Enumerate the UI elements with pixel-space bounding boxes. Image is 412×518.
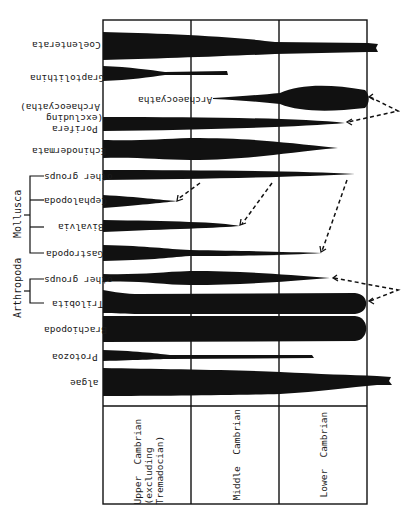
arrow-mollusca-other-gastropoda xyxy=(322,180,347,251)
label-porifera-line1: Porifera xyxy=(52,124,98,134)
spindle-porifera xyxy=(103,117,345,131)
label-graptolithina: Graptolithina xyxy=(30,73,104,83)
label-gastropoda: Gastropoda xyxy=(46,249,103,259)
spindle-echinodermata xyxy=(103,138,338,160)
label-mollusca-other-groups: other groups xyxy=(44,172,113,182)
spindle-arthropoda-other xyxy=(103,271,330,285)
group-label-mollusca: Mollusca xyxy=(12,190,23,238)
label-arthropoda-other-groups: other groups xyxy=(44,275,113,285)
label-coelenterata: Coelenterata xyxy=(32,40,101,50)
spindle-trilobita xyxy=(103,290,366,314)
label-trilobita: Trilobita xyxy=(52,299,103,309)
period-lower-cambrian: Lower Cambrian xyxy=(318,414,329,498)
spindle-graptolithina xyxy=(103,66,228,81)
spindle-gastropoda xyxy=(103,245,322,261)
label-porifera-line3: Archaeocyatha) xyxy=(20,102,100,112)
label-brachiopoda: Brachiopoda xyxy=(44,325,107,335)
arthropoda-bracket xyxy=(30,279,44,303)
arrow-mollusca-other-cephalopoda xyxy=(178,183,200,199)
label-porifera-line2: (excluding xyxy=(46,113,103,123)
arrow-mollusca-other-bivalvia xyxy=(242,183,272,224)
group-brackets xyxy=(24,176,44,303)
period-middle-cambrian: Middle Cambrian xyxy=(231,411,242,501)
spindle-coelenterata xyxy=(103,32,378,60)
label-archaeocyatha-inline: Archaeocyatha xyxy=(138,95,212,105)
group-label-arthropoda: Arthropoda xyxy=(12,258,23,318)
label-echinodermata: Echinodermata xyxy=(32,146,106,156)
cambrian-spindle-diagram: Coelenterata Graptolithina Archaeocyatha… xyxy=(0,0,412,518)
spindle-algae xyxy=(103,368,392,396)
spindle-cephalopoda xyxy=(103,195,177,208)
period-upper-cambrian: Upper Cambrian (excluding Tremadocian) xyxy=(132,405,165,505)
spindle-bivalvia xyxy=(103,220,240,232)
mollusca-bracket xyxy=(30,176,44,253)
label-protozoa: Protozoa xyxy=(52,352,98,362)
label-cephalopoda: Cephalopoda xyxy=(44,196,107,206)
label-algae: algae xyxy=(70,378,99,388)
spindles xyxy=(103,32,392,396)
spindle-brachiopoda xyxy=(103,316,366,342)
spindle-protozoa xyxy=(103,350,314,361)
spindle-mollusca-other xyxy=(103,170,355,180)
label-bivalvia: Bivalvia xyxy=(58,222,104,232)
spindle-archaeocyatha xyxy=(213,86,369,111)
